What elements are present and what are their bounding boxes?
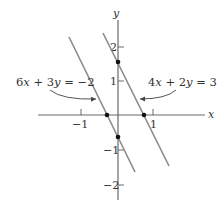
y-tick-label-minus2: −2 [103,179,119,192]
y-axis-label: y [112,7,120,20]
equation-label-left: 6x + 3y = −2 [16,75,95,89]
line-6x-3y-neg2 [69,37,135,172]
point-x-intercept-right [142,113,147,118]
parallel-lines-graph: x y −1 1 2 1 −1 −2 6x + 3y = −2 4x + 2y … [0,0,224,216]
y-tick-label-minus1: −1 [103,144,119,157]
arrow-left-label [50,90,96,99]
point-x-intercept-left [105,113,110,118]
arrow-right-label [140,90,176,99]
equation-label-right: 4x + 2y = 3 [148,75,217,89]
x-tick-label-minus1: −1 [72,118,88,131]
x-axis-label: x [208,108,215,121]
y-tick-label-1: 1 [110,75,117,88]
point-y-intercept-right [116,60,121,65]
point-y-intercept-left [116,135,121,140]
